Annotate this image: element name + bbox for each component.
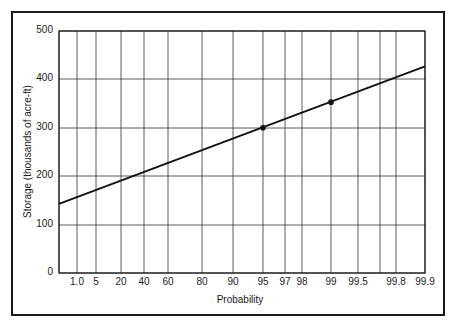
y-tick-label: 500	[27, 24, 53, 35]
x-tick-label: 80	[187, 276, 217, 287]
y-axis-label: Storage (thousands of acre-ft)	[22, 72, 33, 232]
plot-border	[59, 31, 425, 273]
data-point	[260, 125, 266, 131]
x-tick-label: 90	[218, 276, 248, 287]
data-point	[328, 99, 334, 105]
grid-lines	[59, 31, 425, 273]
x-tick-label: 99.5	[343, 276, 373, 287]
fitted-line	[59, 66, 425, 203]
x-tick-label: 98	[287, 276, 317, 287]
x-tick-label: 99.9	[410, 276, 440, 287]
x-tick-label: 99.8	[381, 276, 411, 287]
data-series	[59, 66, 425, 203]
x-tick-label: 60	[153, 276, 183, 287]
x-axis-label: Probability	[200, 294, 280, 305]
y-tick-label: 0	[27, 266, 53, 277]
x-tick-label: 99	[316, 276, 346, 287]
